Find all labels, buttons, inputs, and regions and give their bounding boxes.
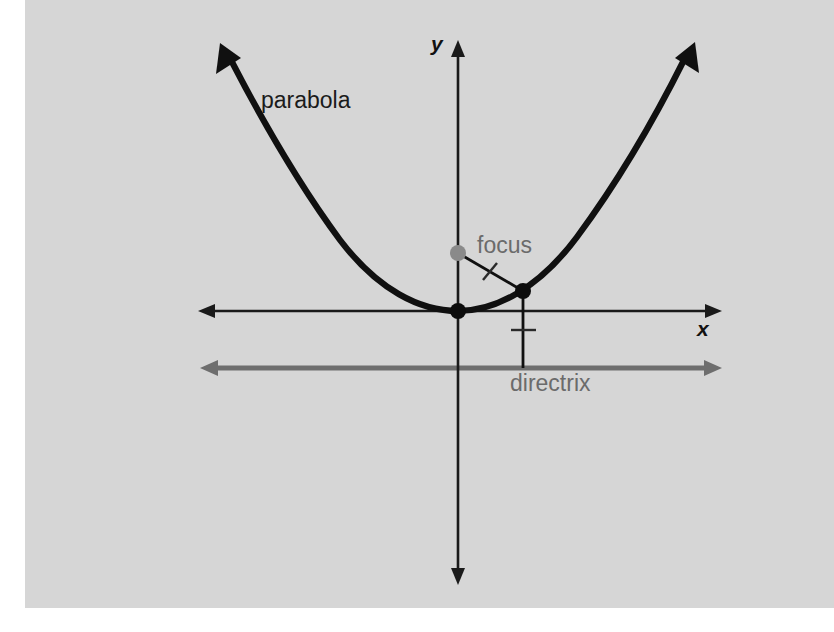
- figure-canvas: [0, 0, 834, 632]
- parabola-label: parabola: [261, 89, 351, 112]
- x-axis-label: x: [697, 318, 709, 339]
- parabola-point-marker: [515, 283, 531, 299]
- focus-point-marker: [450, 245, 466, 261]
- vertex-point-marker: [450, 303, 466, 319]
- focus-label: focus: [477, 234, 532, 257]
- directrix-label: directrix: [510, 372, 591, 395]
- parabola-figure: parabola focus directrix x y: [0, 0, 834, 632]
- y-axis-label: y: [431, 33, 443, 54]
